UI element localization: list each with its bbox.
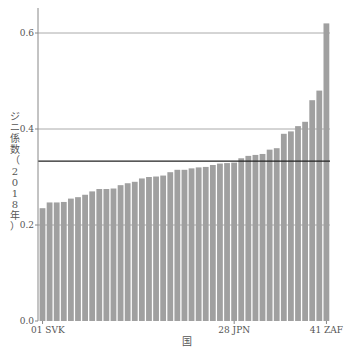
bar (54, 202, 60, 321)
bar (267, 150, 273, 321)
bar (238, 158, 244, 321)
bar (61, 202, 67, 321)
bar (118, 185, 124, 321)
y-tick-labels: 0.00.20.40.6 (20, 28, 38, 326)
gini-bar-chart: 0.00.20.40.6 01 SVK28 JPN41 ZAF ジニ係数（201… (0, 0, 350, 356)
bar (75, 197, 81, 321)
bar (47, 202, 53, 321)
y-axis-title: ジニ係数（2018年） (10, 111, 20, 232)
bar (295, 126, 301, 321)
y-tick-label: 0.2 (20, 220, 34, 230)
bar (281, 134, 287, 321)
bar (210, 165, 216, 321)
y-tick-label: 0.6 (20, 28, 35, 38)
bar (89, 191, 95, 321)
bar (132, 182, 138, 321)
bar (153, 177, 159, 321)
bar (111, 189, 117, 321)
bar (182, 170, 188, 321)
bar (82, 195, 88, 321)
bar (288, 131, 294, 321)
bar (309, 100, 315, 321)
bar (245, 156, 251, 321)
bar (103, 189, 109, 321)
bar (189, 168, 195, 321)
bar (139, 178, 145, 321)
bar (217, 164, 223, 321)
bar (167, 172, 173, 321)
bar (160, 176, 166, 321)
bar (96, 189, 102, 321)
bar (146, 177, 152, 321)
bars (40, 23, 330, 321)
bar (253, 155, 259, 321)
bar (68, 199, 74, 321)
bar (174, 170, 180, 321)
bar (324, 23, 330, 321)
x-tick-label: 28 JPN (218, 325, 250, 335)
bar (316, 91, 322, 321)
bar (125, 183, 131, 321)
y-tick-label: 0.4 (20, 124, 35, 134)
bar (260, 154, 266, 321)
x-axis-title: 国 (182, 336, 192, 347)
bar (196, 167, 202, 321)
x-tick-labels: 01 SVK28 JPN41 ZAF (31, 321, 343, 335)
x-tick-label: 41 ZAF (310, 325, 343, 335)
bar (40, 208, 46, 321)
bar (274, 148, 280, 321)
x-tick-label: 01 SVK (31, 325, 65, 335)
bar (231, 163, 237, 321)
bar (302, 122, 308, 321)
bar (224, 163, 230, 321)
bar (203, 167, 209, 321)
